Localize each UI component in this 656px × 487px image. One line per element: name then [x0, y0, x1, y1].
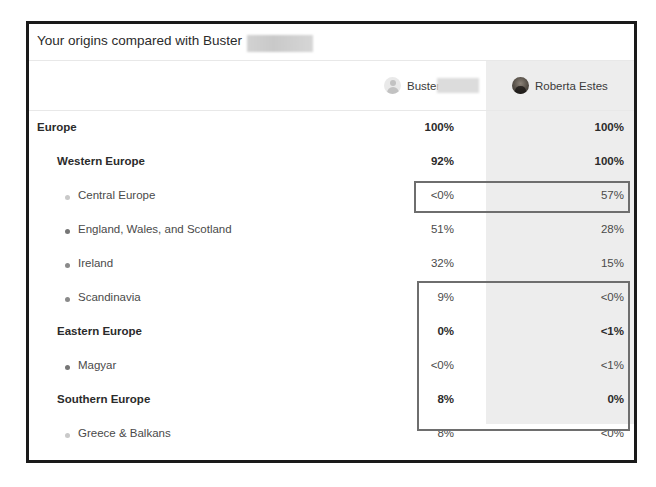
region-label: Ireland	[65, 257, 113, 269]
roberta-percent-value: 100%	[595, 121, 624, 133]
buster-percent-value: 0%	[437, 325, 454, 337]
table-row[interactable]: Scandinavia9%<0%	[29, 281, 634, 315]
roberta-percent-value: 0%	[607, 393, 624, 405]
roberta-percent-value: 15%	[601, 257, 624, 269]
roberta-percent-value: <0%	[601, 291, 624, 303]
table-row[interactable]: Magyar<0%<1%	[29, 349, 634, 383]
region-label: Eastern Europe	[57, 325, 142, 337]
buster-percent-value: 51%	[431, 223, 454, 235]
table-row[interactable]: Eastern Europe0%<1%	[29, 315, 634, 349]
region-label: England, Wales, and Scotland	[65, 223, 232, 235]
region-label: Central Europe	[65, 189, 155, 201]
buster-percent-value: 32%	[431, 257, 454, 269]
buster-percent-value: 92%	[431, 155, 454, 167]
redacted-surname-title	[247, 35, 313, 52]
table-row[interactable]: Europe100%100%	[29, 111, 634, 145]
table-row[interactable]: Western Europe92%100%	[29, 145, 634, 179]
table-row[interactable]: Central Europe<0%57%	[29, 179, 634, 213]
column-header-buster[interactable]: Buster	[384, 77, 440, 94]
buster-percent-value: <0%	[431, 359, 454, 371]
roberta-percent-value: <1%	[601, 325, 624, 337]
region-label: Europe	[37, 121, 77, 133]
region-label: Scandinavia	[65, 291, 141, 303]
table-row[interactable]: Southern Europe8%0%	[29, 383, 634, 417]
roberta-percent-value: <0%	[601, 427, 624, 439]
column-header-roberta[interactable]: Roberta Estes	[512, 77, 608, 94]
photo-avatar-icon	[512, 77, 529, 94]
origins-table-body: Europe100%100%Western Europe92%100%Centr…	[29, 111, 634, 424]
roberta-percent-value: <1%	[601, 359, 624, 371]
page-title: Your origins compared with Buster	[37, 33, 242, 48]
table-row[interactable]: Greece & Balkans8%<0%	[29, 417, 634, 451]
region-label: Greece & Balkans	[65, 427, 171, 439]
roberta-percent-value: 57%	[601, 189, 624, 201]
buster-percent-value: <0%	[431, 189, 454, 201]
buster-percent-value: 100%	[425, 121, 454, 133]
region-label: Magyar	[65, 359, 116, 371]
person-placeholder-avatar-icon	[384, 77, 401, 94]
buster-percent-value: 8%	[437, 427, 454, 439]
buster-percent-value: 8%	[437, 393, 454, 405]
table-row[interactable]: England, Wales, and Scotland51%28%	[29, 213, 634, 247]
origins-comparison-card: Your origins compared with Buster Buster…	[26, 21, 637, 463]
column-header-buster-label: Buster	[407, 80, 440, 92]
region-label: Southern Europe	[57, 393, 150, 405]
table-header-row: Buster Roberta Estes	[29, 61, 634, 111]
roberta-percent-value: 100%	[595, 155, 624, 167]
roberta-percent-value: 28%	[601, 223, 624, 235]
table-row[interactable]: Ireland32%15%	[29, 247, 634, 281]
region-label: Western Europe	[57, 155, 145, 167]
column-header-roberta-label: Roberta Estes	[535, 80, 608, 92]
buster-percent-value: 9%	[437, 291, 454, 303]
redacted-surname-header	[437, 78, 479, 93]
card-title-bar: Your origins compared with Buster	[29, 24, 634, 61]
